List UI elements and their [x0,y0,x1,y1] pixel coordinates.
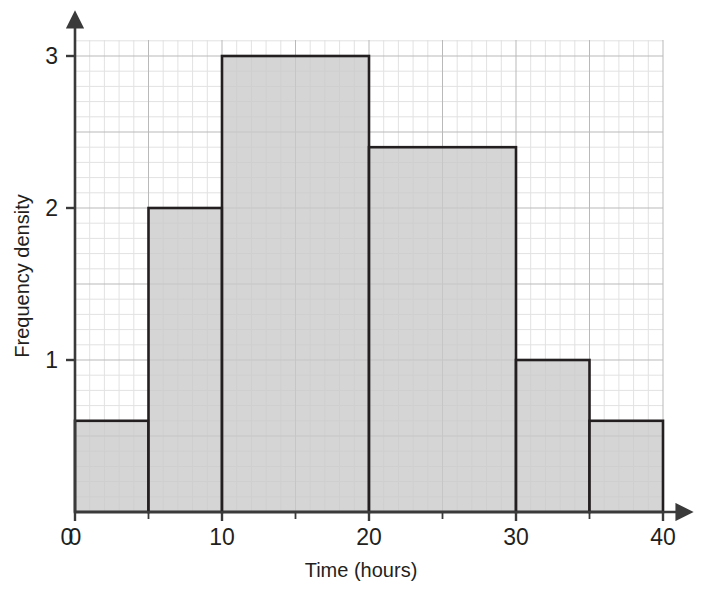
y-tick-label: 3 [45,43,58,69]
x-tick-label: 40 [650,524,676,550]
x-tick-label: 30 [503,524,529,550]
histogram-bar [149,208,223,512]
y-tick-label: 0 [61,524,74,550]
histogram-bar [75,421,149,512]
y-tick-label: 1 [45,347,58,373]
histogram-chart: 010203040 0123 Time (hours) Frequency de… [0,0,707,591]
histogram-bar [222,56,369,512]
histogram-bar [516,360,590,512]
x-axis-title: Time (hours) [305,559,418,581]
y-axis-title: Frequency density [11,194,33,357]
x-tick-label: 10 [209,524,235,550]
histogram-bar [369,147,516,512]
y-tick-label: 2 [45,195,58,221]
chart-canvas: 010203040 0123 Time (hours) Frequency de… [0,0,707,591]
histogram-bar [590,421,664,512]
x-tick-label: 20 [356,524,382,550]
